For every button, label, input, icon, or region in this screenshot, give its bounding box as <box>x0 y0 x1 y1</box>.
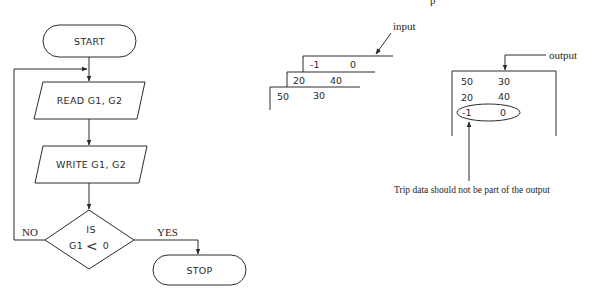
decision-line1: IS <box>86 224 95 235</box>
output-label: output <box>549 49 577 61</box>
write-output-box: WRITE G1, G2 <box>35 146 147 183</box>
input-card-3-g2: 30 <box>313 90 325 101</box>
decision-var: G1 <box>69 240 83 251</box>
flowchart-diagram: p START READ G1, G2 WRITE G1, G2 IS G1 <… <box>0 0 593 301</box>
output-row-1-g2: 30 <box>498 76 510 87</box>
stop-label: STOP <box>186 265 212 276</box>
output-box: 50 30 20 40 -1 0 <box>452 71 556 136</box>
output-pointer-arrow <box>505 55 546 70</box>
decision-diamond: IS G1 < 0 <box>45 210 134 269</box>
input-pointer-arrow <box>376 33 391 54</box>
start-label: START <box>74 36 105 47</box>
start-terminal: START <box>43 25 136 57</box>
decision-operator: < <box>86 238 98 254</box>
read-label: READ G1, G2 <box>57 95 123 106</box>
output-row-1-g1: 50 <box>461 76 473 87</box>
yes-connector <box>134 240 198 254</box>
output-row-3-g2: 0 <box>500 107 506 118</box>
trip-data-caption: Trip data should not be part of the outp… <box>394 185 550 195</box>
input-card-1-g2: 0 <box>350 59 356 70</box>
output-row-2-g2: 40 <box>498 91 510 102</box>
yes-label: YES <box>157 226 178 238</box>
input-card-3-g1: 50 <box>277 91 289 102</box>
input-card-1-g1: -1 <box>310 59 319 70</box>
input-label: input <box>393 20 416 32</box>
decision-value: 0 <box>103 240 109 251</box>
read-input-box: READ G1, G2 <box>34 82 145 119</box>
stop-terminal: STOP <box>153 255 246 285</box>
write-label: WRITE G1, G2 <box>56 159 126 170</box>
no-label: NO <box>22 226 38 238</box>
input-card-2-g2: 40 <box>330 75 342 86</box>
input-card-2-g1: 20 <box>293 75 305 86</box>
input-card-deck: -1 0 20 40 50 30 <box>270 56 393 110</box>
cropped-text-fragment: p <box>430 0 436 6</box>
output-row-2-g1: 20 <box>461 92 473 103</box>
output-row-3-g1: -1 <box>462 107 471 118</box>
